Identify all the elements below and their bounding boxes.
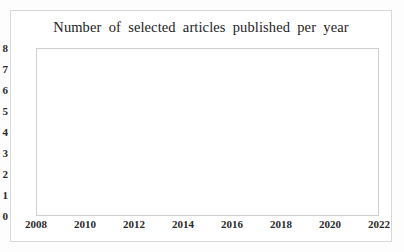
y-axis-tick-labels: 012345678 bbox=[0, 48, 8, 216]
y-tick-label-3: 3 bbox=[3, 148, 9, 159]
x-tick-label-2010: 2010 bbox=[74, 219, 96, 230]
y-tick-label-0: 0 bbox=[3, 211, 9, 222]
x-tick-label-2008: 2008 bbox=[25, 219, 47, 230]
x-tick-label-2018: 2018 bbox=[270, 219, 292, 230]
y-tick-label-1: 1 bbox=[3, 190, 9, 201]
y-tick-label-8: 8 bbox=[3, 43, 9, 54]
y-tick-label-4: 4 bbox=[3, 127, 9, 138]
x-axis-tick-labels: 20082010201220142016201820202022 bbox=[36, 219, 379, 237]
y-tick-label-5: 5 bbox=[3, 106, 9, 117]
x-tick-label-2020: 2020 bbox=[319, 219, 341, 230]
y-tick-label-7: 7 bbox=[3, 64, 9, 75]
chart-title: Number of selected articles published pe… bbox=[11, 19, 391, 36]
x-tick-label-2016: 2016 bbox=[221, 219, 243, 230]
plot-area bbox=[36, 48, 379, 216]
x-tick-label-2014: 2014 bbox=[172, 219, 194, 230]
y-tick-label-2: 2 bbox=[3, 169, 9, 180]
x-tick-label-2012: 2012 bbox=[123, 219, 145, 230]
x-tick-label-2022: 2022 bbox=[368, 219, 390, 230]
y-tick-label-6: 6 bbox=[3, 85, 9, 96]
chart-figure: Number of selected articles published pe… bbox=[10, 10, 392, 242]
plot-frame bbox=[36, 48, 379, 216]
